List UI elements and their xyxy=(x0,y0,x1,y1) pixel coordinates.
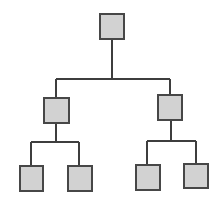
tree-diagram xyxy=(0,0,223,208)
node-right-right xyxy=(184,164,208,188)
nodes xyxy=(20,14,208,191)
node-right xyxy=(158,95,182,120)
node-left xyxy=(44,98,69,123)
edge-left-children xyxy=(31,123,79,166)
node-left-right xyxy=(68,166,92,191)
node-left-left xyxy=(20,166,43,191)
edge-root-children xyxy=(56,39,170,97)
edge-right-children xyxy=(147,120,196,165)
node-right-left xyxy=(136,165,160,190)
node-root xyxy=(100,14,124,39)
